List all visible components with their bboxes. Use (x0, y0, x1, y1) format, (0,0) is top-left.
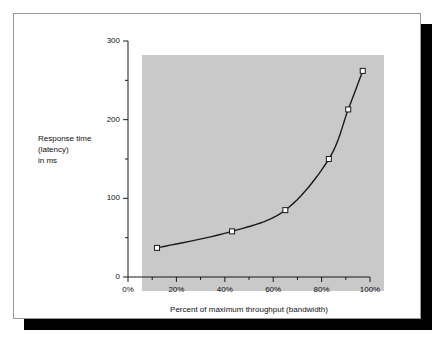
x-tick-label: 60% (248, 285, 298, 294)
x-tick-label: 80% (297, 285, 347, 294)
data-point-marker (283, 208, 288, 213)
y-tick-label: 100 (80, 193, 120, 202)
x-tick-label: 40% (200, 285, 250, 294)
data-point-marker (230, 229, 235, 234)
y-tick-label: 0 (80, 272, 120, 281)
axes-group (128, 41, 370, 277)
y-tick-label: 200 (80, 115, 120, 124)
y-axis-title: Response time (latency) in ms (38, 133, 91, 166)
y-axis-title-line-1: Response time (38, 133, 91, 144)
y-axis-title-line-3: in ms (38, 155, 91, 166)
y-axis-tick-marks (123, 41, 128, 277)
x-axis-title: Percent of maximum throughput (bandwidth… (128, 305, 370, 314)
y-tick-label: 300 (80, 36, 120, 45)
data-point-marker (155, 245, 160, 250)
y-axis-title-line-2: (latency) (38, 144, 91, 155)
data-point-marker (326, 157, 331, 162)
data-point-marker (360, 68, 365, 73)
data-series-line (157, 71, 363, 248)
x-tick-label: 0% (103, 285, 153, 294)
x-axis-tick-marks (128, 277, 370, 282)
x-tick-label: 20% (151, 285, 201, 294)
data-point-marker (346, 107, 351, 112)
x-tick-label: 100% (345, 285, 395, 294)
